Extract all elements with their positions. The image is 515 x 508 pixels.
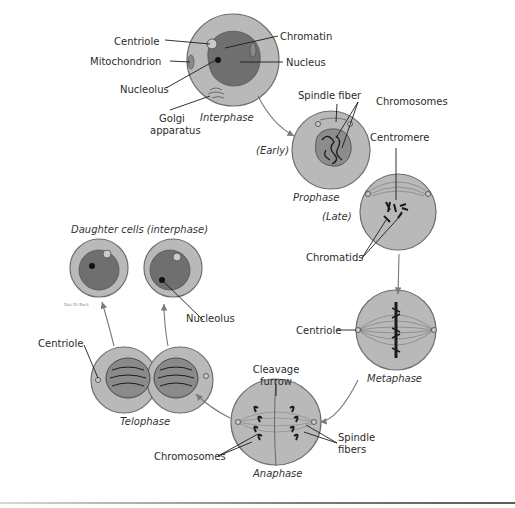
label-nucleolus: Nucleolus xyxy=(120,84,169,96)
label-golgi-line1: Golgi xyxy=(159,113,185,124)
prophase-early-cell xyxy=(292,111,370,189)
telophase-cell xyxy=(91,347,213,413)
label-nucleus: Nucleus xyxy=(286,57,326,69)
label-centriole-metaphase: Centriole xyxy=(296,325,341,337)
label-spindle-fibers-line1: Spindle xyxy=(338,432,375,443)
metaphase-cell xyxy=(356,290,437,370)
label-chromosomes-prophase: Chromosomes xyxy=(376,96,448,108)
phase-prophase-early: (Early) xyxy=(256,145,289,157)
label-golgi-apparatus: Golgi apparatus xyxy=(150,113,194,137)
interphase-cell xyxy=(187,14,279,106)
label-mitochondrion: Mitochondrion xyxy=(90,56,161,68)
phase-telophase: Telophase xyxy=(120,416,170,428)
label-cleavage-line1: Cleavage xyxy=(253,364,300,375)
daughter-cells xyxy=(70,239,202,297)
label-centriole-telophase: Centriole xyxy=(38,338,83,350)
phase-prophase-late: (Late) xyxy=(322,211,352,223)
phase-daughter-cells: Daughter cells (interphase) xyxy=(71,224,208,236)
label-chromatids: Chromatids xyxy=(306,252,363,264)
label-centromere: Centromere xyxy=(370,132,429,144)
phase-interphase: Interphase xyxy=(200,112,254,124)
label-golgi-line2: apparatus xyxy=(150,125,201,136)
mitosis-diagram: Centriole Mitochondrion Nucleolus Golgi … xyxy=(0,0,515,508)
label-chromatin: Chromatin xyxy=(280,31,332,43)
label-nucleolus-daughter: Nucleolus xyxy=(186,313,235,325)
phase-anaphase: Anaphase xyxy=(253,468,302,480)
prophase-late-cell xyxy=(360,174,436,250)
bottom-rule xyxy=(0,502,515,504)
label-spindle-fibers: Spindle fibers xyxy=(338,432,375,456)
label-spindle-fibers-line2: fibers xyxy=(338,444,366,455)
label-cleavage-furrow: Cleavage furrow xyxy=(252,364,300,388)
phase-metaphase: Metaphase xyxy=(367,373,422,385)
phase-prophase: Prophase xyxy=(293,192,339,204)
label-spindle-fiber: Spindle fiber xyxy=(298,90,361,102)
label-cleavage-line2: furrow xyxy=(260,376,292,387)
artist-signature: Dav Dr Bock xyxy=(64,302,89,307)
label-centriole: Centriole xyxy=(114,36,159,48)
label-chromosomes-anaphase: Chromosomes xyxy=(154,451,226,463)
